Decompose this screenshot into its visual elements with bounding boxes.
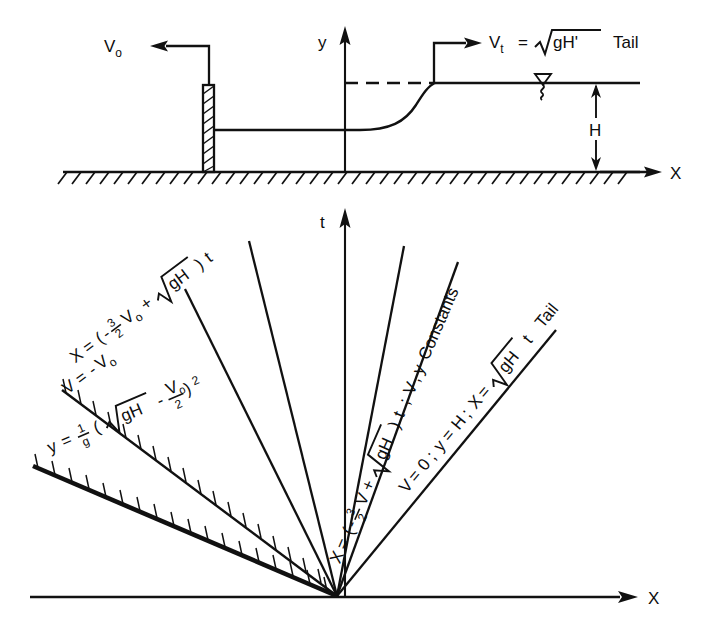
negative-characteristic-x-equation: X = ( - 3 2 Vo + gH ) t — [64, 246, 219, 371]
gen-eq: = — [332, 536, 353, 553]
depth-dimension-H: H — [586, 84, 608, 171]
tail-t: t — [519, 331, 537, 347]
fs-two: 2 — [173, 396, 185, 412]
gen-semicolon: ; — [395, 396, 414, 408]
ground-hatching — [58, 172, 627, 184]
tail-characteristic-equation: V = 0 ; y = H ; X = gH t Tail — [393, 298, 565, 499]
negative-characteristic-hatching — [63, 379, 321, 583]
fs-eq: = — [58, 430, 75, 451]
characteristic-fan — [185, 241, 556, 596]
vt-velocity-arrow — [434, 38, 482, 84]
neg-char-t: t — [201, 248, 216, 266]
figure-canvas: X y — [0, 0, 722, 626]
vt-symbol: Vt — [489, 33, 504, 56]
lower-diagram: X t — [30, 208, 659, 608]
t-axis-label: t — [320, 213, 325, 232]
dam-gate-hatching — [203, 86, 214, 172]
upper-diagram: X y — [58, 26, 681, 184]
gen-t: t — [389, 408, 408, 420]
v0-arrowhead — [150, 41, 168, 52]
negative-characteristic-line — [62, 390, 337, 596]
free-surface-boundary-hatching — [35, 454, 327, 591]
fs-y: y — [44, 436, 60, 457]
water-surface-elevation-symbol — [535, 74, 551, 100]
lower-tail-word: Tail — [531, 300, 562, 332]
upper-y-axis-label: y — [318, 33, 327, 52]
v0-velocity-arrow — [150, 41, 209, 86]
characteristic-line-1 — [185, 289, 337, 596]
characteristic-line-5 — [337, 330, 556, 596]
vt-radicand: gH' — [553, 33, 578, 52]
lower-x-axis-arrowhead — [618, 591, 638, 603]
dam-gate — [203, 85, 214, 172]
v0-label: Vo — [104, 37, 122, 60]
fs-g: g — [80, 434, 92, 450]
characteristic-line-2 — [249, 241, 337, 596]
gen-constants: Constants — [415, 285, 463, 363]
fs-exponent: 2 — [190, 373, 202, 389]
free-surface-boundary-line — [33, 466, 337, 596]
H-label: H — [589, 121, 601, 140]
upper-tail-label: Tail — [613, 33, 639, 52]
neg-char-two: 2 — [112, 325, 126, 340]
upper-x-axis-label: X — [670, 164, 681, 183]
vt-arrowhead — [464, 38, 482, 49]
fs-minus: - — [154, 391, 167, 411]
vt-equals: = — [518, 33, 528, 52]
neg-char-radicand: gH — [164, 265, 193, 293]
gen-plus: + — [358, 477, 379, 494]
lower-x-axis-label: X — [648, 589, 659, 608]
water-surface-profile — [214, 83, 435, 130]
vt-equation-label: Vt = gH' Tail — [489, 30, 639, 56]
neg-char-plus: + — [137, 293, 156, 314]
figure-root: X y — [0, 0, 722, 626]
